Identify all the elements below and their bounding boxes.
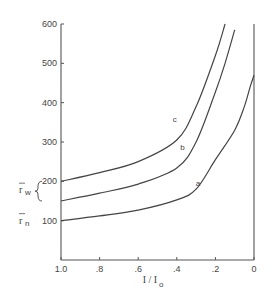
- r-n-subscript: n: [25, 219, 29, 228]
- r-n-main: r: [19, 215, 23, 226]
- curve-label-a: a: [196, 179, 201, 188]
- y-tick-label: 200: [42, 176, 57, 186]
- curve-label-b: b: [180, 143, 185, 152]
- x-tick-label: 1.0: [55, 264, 68, 274]
- x-tick-label: 0: [251, 264, 256, 274]
- y-tick-label: 500: [42, 58, 57, 68]
- x-axis-title-subscript: o: [159, 280, 164, 289]
- y-tick-label: 100: [42, 216, 57, 226]
- curve-c: [61, 24, 225, 181]
- curve-label-c: c: [173, 115, 177, 124]
- x-tick-label: .8: [96, 264, 104, 274]
- curve-a: [61, 75, 254, 221]
- chart: 1002003004005006001.0.8.6.4.20 I / Iorwr…: [0, 0, 272, 295]
- x-axis-title: I / I: [143, 274, 157, 285]
- x-tick-label: .4: [173, 264, 181, 274]
- x-tick-label: .2: [212, 264, 220, 274]
- brace-icon: [35, 181, 42, 201]
- y-tick-label: 400: [42, 98, 57, 108]
- x-tick-label: .6: [134, 264, 142, 274]
- curves: [61, 24, 254, 221]
- r-n-label: rn: [19, 214, 29, 228]
- y-tick-label: 600: [42, 19, 57, 29]
- r-w-subscript: w: [24, 188, 31, 197]
- y-tick-label: 300: [42, 137, 57, 147]
- r-w-main: r: [19, 184, 23, 195]
- r-w-label: rw: [19, 183, 31, 197]
